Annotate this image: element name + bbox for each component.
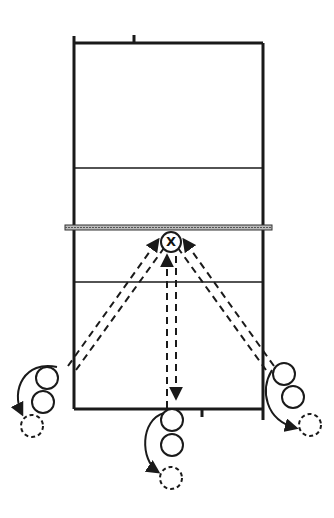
target-left — [21, 415, 43, 437]
target-middle — [160, 467, 182, 489]
player-right-2 — [282, 386, 304, 408]
player-right-1 — [273, 363, 295, 385]
player-middle-1 — [161, 409, 183, 431]
player-left-1 — [36, 367, 58, 389]
pass-paths — [68, 240, 274, 408]
target-right — [299, 414, 321, 436]
player-left-2 — [32, 391, 54, 413]
volleyball-drill-diagram: X — [0, 0, 334, 518]
player-middle-2 — [161, 434, 183, 456]
court-svg — [0, 0, 334, 518]
rotation-arrows — [18, 366, 296, 472]
net — [65, 225, 272, 230]
setter-label: X — [166, 234, 176, 249]
